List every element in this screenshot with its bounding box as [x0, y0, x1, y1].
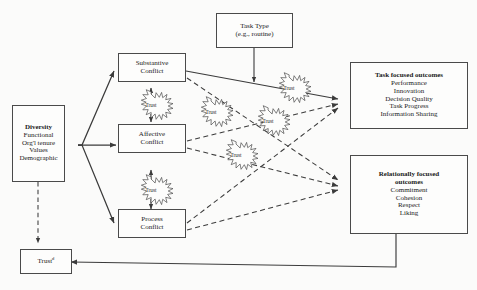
- starburst-trust-aff-proc: [141, 175, 173, 205]
- starburst-trust-top-right: [279, 73, 311, 103]
- box-diversity: Diversity Functional Org'l tenure Values…: [12, 105, 65, 182]
- trust-bottom-label: Trust: [38, 258, 53, 266]
- box-task-type: Task Type (e.g., routine): [216, 13, 293, 48]
- task-outcomes-item-information-sharing: Information Sharing: [381, 111, 438, 119]
- edge-substantive-to-relational: [187, 78, 338, 180]
- box-relationally-focused-outcomes: Relationally focused outcomes Commitment…: [350, 155, 468, 234]
- starburst-trust-mid-left: [201, 97, 233, 127]
- edge-affective-to-relational: [187, 148, 338, 186]
- trust-bottom-superscript: d: [52, 256, 54, 261]
- box-trust-bottom: Trustd: [20, 249, 72, 274]
- process-line2: Conflict: [141, 224, 164, 232]
- affective-line2: Conflict: [141, 139, 164, 147]
- edge-diversity-to-substantive: [78, 71, 114, 145]
- edge-diversity-to-process: [78, 145, 114, 223]
- edge-process-to-relational: [187, 190, 338, 230]
- substantive-line2: Conflict: [141, 68, 164, 76]
- trust-bottom-text: Trustd: [38, 256, 55, 266]
- task-type-line2: (e.g., routine): [235, 31, 273, 39]
- edge-substantive-to-task-outcomes: [186, 71, 338, 99]
- diversity-item-demographic: Demographic: [19, 155, 57, 163]
- diagram-canvas: Trust Trust Trust Trust Trust Trust Dive…: [0, 0, 477, 290]
- box-substantive-conflict: Substantive Conflict: [118, 53, 186, 82]
- box-task-focused-outcomes: Task focused outcomes Performance Innova…: [350, 62, 468, 129]
- starburst-trust-sub-aff: [141, 90, 173, 120]
- box-process-conflict: Process Conflict: [118, 209, 186, 238]
- box-affective-conflict: Affective Conflict: [118, 124, 186, 153]
- starburst-trust-mid-right: [258, 106, 290, 136]
- relational-outcomes-item-liking: Liking: [400, 210, 419, 218]
- edge-relational-to-trust: [71, 234, 396, 267]
